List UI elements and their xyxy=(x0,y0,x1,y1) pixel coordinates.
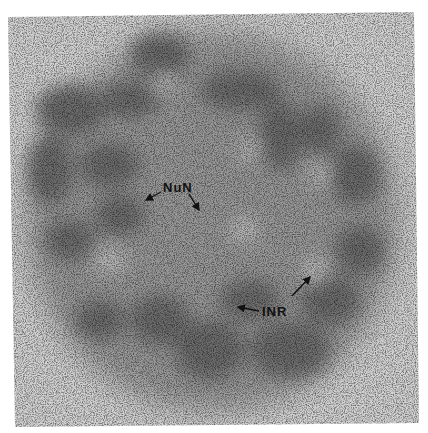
grain-texture xyxy=(0,0,428,433)
photo-area xyxy=(0,0,428,433)
micrograph xyxy=(0,0,428,433)
label-inr: INR xyxy=(262,305,287,318)
label-nun: NuN xyxy=(163,181,193,194)
